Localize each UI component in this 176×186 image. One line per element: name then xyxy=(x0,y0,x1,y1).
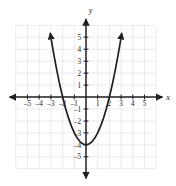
coordinate-plane-svg: –5 –4 –3 –2 –1 1 2 3 4 5 5 4 3 2 1 –1 –2… xyxy=(0,0,176,186)
x-tick-label: –3 xyxy=(46,100,55,108)
chart-background xyxy=(0,0,176,186)
y-tick-label: –1 xyxy=(73,106,82,114)
y-tick-label: 5 xyxy=(78,34,82,42)
graph-figure: –5 –4 –3 –2 –1 1 2 3 4 5 5 4 3 2 1 –1 –2… xyxy=(0,0,176,186)
x-axis-label: x xyxy=(165,93,170,102)
x-tick-label: –4 xyxy=(35,100,44,108)
x-tick-label: 5 xyxy=(143,100,147,108)
x-tick-label: 3 xyxy=(119,100,123,108)
y-tick-label: 1 xyxy=(78,82,82,90)
y-tick-label: –2 xyxy=(73,118,82,126)
x-tick-label: 4 xyxy=(131,100,135,108)
y-tick-label: 2 xyxy=(78,70,82,78)
y-tick-label: –5 xyxy=(73,153,82,161)
y-tick-label: 3 xyxy=(78,58,82,66)
y-axis-label: y xyxy=(88,6,93,15)
x-tick-label: 1 xyxy=(96,100,100,108)
y-tick-label: 4 xyxy=(78,46,82,54)
x-tick-label: –5 xyxy=(23,100,32,108)
